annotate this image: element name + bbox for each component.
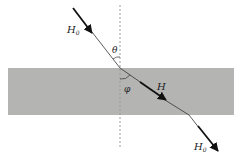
- theta-arc: [113, 57, 120, 59]
- incident-field-label: H0: [66, 24, 80, 36]
- slab: [8, 68, 234, 115]
- slab-field-label: H: [156, 81, 166, 92]
- phi-label: φ: [124, 84, 131, 94]
- emergent-field-label: H0: [193, 141, 207, 153]
- refraction-diagram: H0 θ φ H H0: [0, 0, 241, 161]
- theta-label: θ: [112, 45, 118, 55]
